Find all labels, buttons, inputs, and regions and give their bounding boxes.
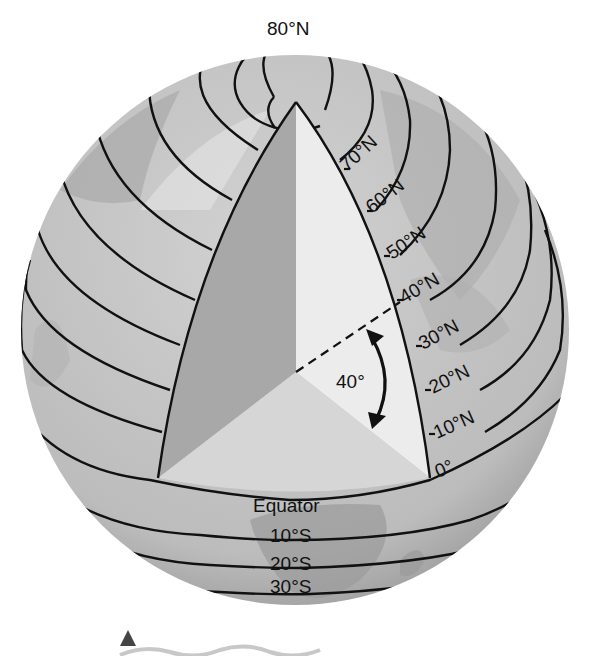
label-20s: 20°S xyxy=(270,553,311,574)
equator-label: Equator xyxy=(253,495,320,516)
label-10s: 10°S xyxy=(270,525,311,546)
triangle-marker-icon xyxy=(120,630,136,646)
wave-decoration xyxy=(120,646,320,655)
latitude-globe-diagram: 80°N 70°N 60°N 50°N 40°N 30°N 20°N 10°N … xyxy=(0,0,591,656)
label-30s: 30°S xyxy=(270,576,311,597)
label-80n: 80°N xyxy=(267,18,309,39)
angle-label: 40° xyxy=(336,371,365,392)
